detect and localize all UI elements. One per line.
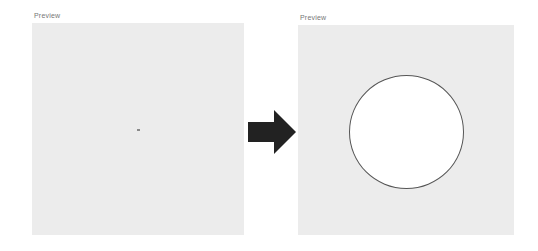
left-preview-label: Preview bbox=[34, 12, 60, 19]
right-preview-panel bbox=[298, 25, 514, 235]
right-preview-label: Preview bbox=[300, 14, 326, 21]
circle-shape bbox=[349, 75, 464, 189]
right-arrow-icon bbox=[248, 110, 296, 154]
left-preview-panel bbox=[32, 23, 244, 235]
center-point bbox=[137, 129, 140, 131]
